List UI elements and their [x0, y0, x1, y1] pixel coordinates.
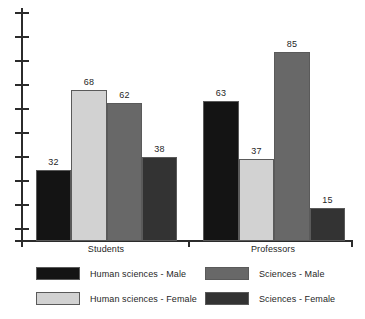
bar: [142, 157, 177, 241]
bar: [36, 170, 71, 241]
bar-value-label: 15: [310, 196, 345, 205]
legend-label: Sciences - Male: [259, 269, 325, 279]
bar: [274, 52, 310, 241]
bar-value-label: 63: [203, 89, 239, 98]
x-axis-group-label: Students: [56, 244, 156, 255]
legend-swatch: [205, 267, 249, 280]
bar-value-label: 38: [142, 145, 177, 154]
bar-value-label: 37: [239, 147, 274, 156]
bar-value-label: 62: [107, 91, 142, 100]
bar-value-label: 32: [36, 158, 71, 167]
bars-layer: 3268623863378515: [0, 0, 365, 242]
legend-swatch: [36, 267, 80, 280]
legend-label: Human sciences - Female: [90, 294, 197, 304]
bar-value-label: 85: [274, 40, 310, 49]
grouped-bar-chart: 3268623863378515 StudentsProfessors Huma…: [0, 0, 365, 319]
bar: [239, 159, 274, 241]
legend-label: Human sciences - Male: [90, 269, 186, 279]
bar: [71, 90, 107, 241]
bar: [203, 101, 239, 241]
x-axis-group-label: Professors: [223, 244, 323, 255]
chart-legend: Human sciences - MaleHuman sciences - Fe…: [0, 262, 365, 319]
bar: [107, 103, 142, 241]
legend-swatch: [36, 292, 80, 305]
legend-swatch: [205, 292, 249, 305]
legend-label: Sciences - Female: [259, 294, 335, 304]
bar: [310, 208, 345, 241]
plot-area: 3268623863378515 StudentsProfessors: [0, 0, 365, 252]
bar-value-label: 68: [71, 78, 107, 87]
